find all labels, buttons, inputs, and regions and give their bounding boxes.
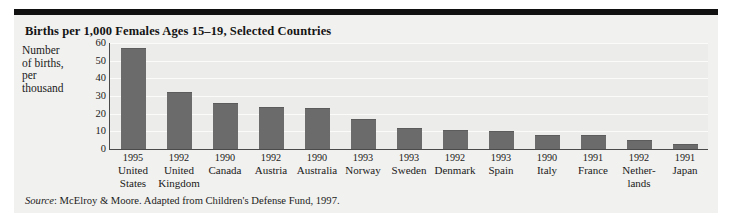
y-axis-title-line: thousand (22, 82, 84, 95)
x-axis-label-group: 1991France (570, 152, 616, 189)
bar-slot (524, 43, 570, 149)
plot-area (110, 43, 708, 149)
bar[interactable] (305, 108, 330, 149)
x-axis-label-group: 1990Australia (294, 152, 340, 189)
y-axis-tick-label: 60 (96, 38, 107, 49)
y-axis-tick-label: 0 (101, 144, 106, 155)
bar-slot (616, 43, 662, 149)
y-axis-tick-label: 20 (96, 108, 107, 119)
source-note: Source: McElroy & Moore. Adapted from Ch… (25, 195, 340, 206)
x-axis-line (109, 149, 708, 150)
y-axis-ticks: 0102030405060 (88, 43, 106, 150)
x-axis-label-group: 1991Japan (662, 152, 708, 189)
x-axis-country: United (110, 164, 156, 176)
x-axis-year: 1990 (294, 152, 340, 164)
bar[interactable] (351, 119, 376, 149)
bar-series (110, 43, 708, 149)
x-axis-country: Austria (248, 164, 294, 176)
bar[interactable] (627, 140, 652, 149)
bar-slot (432, 43, 478, 149)
y-axis-tick-label: 10 (96, 126, 107, 137)
x-axis-label-group: 1992Denmark (432, 152, 478, 189)
x-axis-year: 1993 (478, 152, 524, 164)
x-axis-country: Norway (340, 164, 386, 176)
x-axis-country: Spain (478, 164, 524, 176)
chart-figure: Births per 1,000 Females Ages 15–19, Sel… (14, 9, 718, 213)
x-axis-year: 1993 (340, 152, 386, 164)
bar-slot (248, 43, 294, 149)
x-axis-country: lands (616, 177, 662, 189)
x-axis-country: Sweden (386, 164, 432, 176)
y-axis-title-line: Number (22, 44, 84, 57)
x-axis-country: Italy (524, 164, 570, 176)
y-axis-title: Number of births, per thousand (22, 44, 84, 94)
x-axis-country: United (156, 164, 202, 176)
x-axis-year: 1992 (616, 152, 662, 164)
x-axis-country: Australia (294, 164, 340, 176)
x-axis-year: 1993 (386, 152, 432, 164)
source-text: : McElroy & Moore. Adapted from Children… (54, 195, 340, 206)
bar-slot (202, 43, 248, 149)
x-axis-year: 1991 (662, 152, 708, 164)
x-axis-label-group: 1993Sweden (386, 152, 432, 189)
x-axis-label-group: 1992UnitedKingdom (156, 152, 202, 189)
x-axis-year: 1990 (524, 152, 570, 164)
x-axis-label-group: 1995UnitedStates (110, 152, 156, 189)
x-axis-year: 1992 (432, 152, 478, 164)
x-axis-label-group: 1992Nether-lands (616, 152, 662, 189)
plot-wrapper: 0102030405060 (88, 43, 708, 150)
x-axis-country: States (110, 177, 156, 189)
y-axis-title-line: of births, (22, 57, 84, 70)
x-axis-label-group: 1990Canada (202, 152, 248, 189)
x-axis-year: 1991 (570, 152, 616, 164)
bar[interactable] (443, 130, 468, 149)
x-axis-labels: 1995UnitedStates1992UnitedKingdom1990Can… (110, 152, 708, 189)
bar[interactable] (535, 135, 560, 149)
x-axis-country: France (570, 164, 616, 176)
top-rule-divider (14, 9, 718, 15)
bar-slot (294, 43, 340, 149)
x-axis-year: 1990 (202, 152, 248, 164)
x-axis-country: Japan (662, 164, 708, 176)
x-axis-country: Canada (202, 164, 248, 176)
bar[interactable] (397, 128, 422, 149)
y-axis-tick-label: 50 (96, 55, 107, 66)
y-axis-tick-label: 40 (96, 73, 107, 84)
x-axis-year: 1992 (156, 152, 202, 164)
x-axis-year: 1995 (110, 152, 156, 164)
x-axis-country: Kingdom (156, 177, 202, 189)
bar-slot (478, 43, 524, 149)
bar-slot (340, 43, 386, 149)
chart-title: Births per 1,000 Females Ages 15–19, Sel… (25, 24, 331, 39)
bar[interactable] (121, 48, 146, 149)
x-axis-year: 1992 (248, 152, 294, 164)
bar-slot (662, 43, 708, 149)
bar[interactable] (581, 135, 606, 149)
bar-slot (386, 43, 432, 149)
y-axis-title-line: per (22, 69, 84, 82)
bar[interactable] (167, 92, 192, 149)
source-label: Source (25, 195, 54, 206)
bar[interactable] (489, 131, 514, 149)
bar-slot (110, 43, 156, 149)
x-axis-label-group: 1993Spain (478, 152, 524, 189)
bar-slot (156, 43, 202, 149)
bar[interactable] (213, 103, 238, 149)
x-axis-label-group: 1993Norway (340, 152, 386, 189)
x-axis-country: Nether- (616, 164, 662, 176)
x-axis-country: Denmark (432, 164, 478, 176)
x-axis-label-group: 1992Austria (248, 152, 294, 189)
bar[interactable] (259, 107, 284, 149)
y-axis-tick-label: 30 (96, 91, 107, 102)
x-axis-label-group: 1990Italy (524, 152, 570, 189)
bar-slot (570, 43, 616, 149)
